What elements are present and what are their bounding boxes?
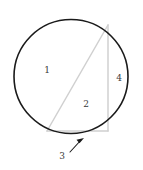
region-label-3: 3: [59, 151, 65, 161]
inscribed-triangle: [47, 25, 108, 131]
region-label-4: 4: [116, 73, 122, 83]
figure-canvas: 1 2 4 3: [0, 0, 143, 170]
circle-outline: [14, 20, 128, 134]
region-label-2: 2: [83, 99, 89, 109]
arrow-head: [77, 138, 85, 143]
region-label-1: 1: [44, 65, 50, 75]
triangle-hypotenuse: [47, 25, 108, 131]
geometry-figure: 1 2 4 3: [0, 0, 143, 170]
callout-arrow-3: [70, 138, 84, 152]
